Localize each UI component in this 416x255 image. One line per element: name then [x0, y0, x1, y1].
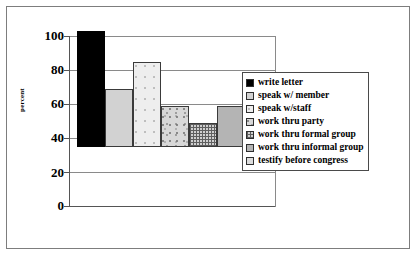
legend-swatch-icon	[246, 79, 254, 87]
y-axis-tick-labels: 100 80 60 40 20 0	[22, 0, 64, 255]
bar-speak-w-member[interactable]	[105, 89, 133, 147]
legend-item-work-thru-formal-group[interactable]: work thru formal group	[246, 128, 364, 141]
legend-label: speak w/ member	[258, 91, 329, 101]
legend-label: speak w/staff	[258, 104, 311, 114]
bar-work-thru-informal-group[interactable]	[217, 106, 245, 147]
y-tick-label: 0	[26, 199, 64, 212]
legend-swatch-icon	[246, 105, 254, 113]
legend-item-work-thru-informal-group[interactable]: work thru informal group	[246, 141, 364, 154]
chart-screenshot: percent 100 80 60 40 20 0	[0, 0, 416, 255]
legend-item-speak-w-member[interactable]: speak w/ member	[246, 89, 364, 102]
legend-item-work-thru-party[interactable]: work thru party	[246, 115, 364, 128]
legend-label: testify before congress	[258, 156, 348, 166]
y-tick-label: 20	[26, 166, 64, 179]
legend-swatch-icon	[246, 118, 254, 126]
chart-legend: write letter speak w/ member speak w/sta…	[242, 72, 369, 171]
legend-label: work thru informal group	[258, 143, 364, 153]
y-tick-label: 80	[26, 63, 64, 76]
legend-swatch-icon	[246, 157, 254, 165]
legend-swatch-icon	[246, 144, 254, 152]
x-axis-line	[69, 206, 276, 207]
legend-swatch-icon	[246, 131, 254, 139]
bar-chart: percent 100 80 60 40 20 0	[0, 0, 416, 155]
gridline-20	[69, 172, 275, 173]
bar-write-letter[interactable]	[77, 31, 105, 147]
legend-label: work thru party	[258, 117, 324, 127]
bar-speak-w-staff[interactable]	[133, 62, 161, 147]
legend-label: work thru formal group	[258, 130, 356, 140]
legend-label: write letter	[258, 78, 303, 88]
y-tick-label: 40	[26, 131, 64, 144]
legend-item-speak-w-staff[interactable]: speak w/staff	[246, 102, 364, 115]
legend-item-write-letter[interactable]: write letter	[246, 76, 364, 89]
legend-item-testify-before-congress[interactable]: testify before congress	[246, 154, 364, 167]
y-tick-label: 100	[26, 29, 64, 42]
bar-work-thru-formal-group[interactable]	[189, 123, 217, 147]
y-tick-label: 60	[26, 97, 64, 110]
bar-work-thru-party[interactable]	[161, 106, 189, 147]
legend-swatch-icon	[246, 92, 254, 100]
